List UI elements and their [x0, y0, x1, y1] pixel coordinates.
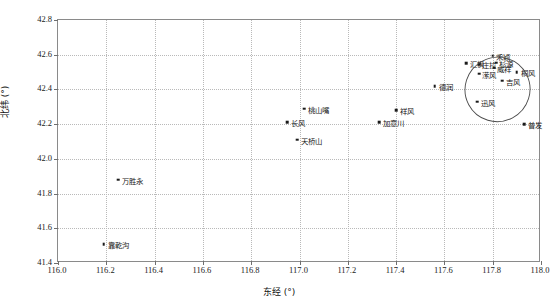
data-point-marker[interactable]: [478, 63, 481, 66]
x-axis-tick-label: 116.6: [192, 265, 211, 275]
scatter-plot-figure: 北纬 (°) 桃山嘴长风天桥山祥风加意川德润万胜永靠乾沟汇枫庄拉禾颖杉源威祥潆风…: [0, 0, 558, 308]
y-axis-tick: [54, 228, 58, 229]
plot-area: 桃山嘴长风天桥山祥风加意川德润万胜永靠乾沟汇枫庄拉禾颖杉源威祥潆风桐风吉风迅风普…: [57, 19, 540, 262]
data-point-marker[interactable]: [478, 73, 481, 76]
data-point-label: 长风: [291, 117, 305, 128]
gridline-vertical: [348, 20, 349, 261]
y-axis-tick: [54, 89, 58, 90]
data-point-marker[interactable]: [465, 62, 468, 65]
y-axis-tick-label: 41.6: [8, 222, 52, 232]
y-axis-tick-label: 42.8: [8, 14, 52, 24]
data-point-label: 靠乾沟: [108, 238, 129, 249]
gridline-horizontal: [58, 228, 539, 229]
data-point-marker[interactable]: [378, 121, 381, 124]
y-axis-tick-label: 42.0: [8, 153, 52, 163]
gridline-vertical: [444, 20, 445, 261]
data-point-label: 威祥: [497, 62, 511, 73]
gridline-vertical: [251, 20, 252, 261]
data-point-marker[interactable]: [491, 54, 494, 57]
data-point-label: 吉风: [506, 75, 520, 86]
y-axis-tick: [54, 159, 58, 160]
y-axis-tick: [54, 124, 58, 125]
x-axis-tick-label: 117.8: [482, 265, 501, 275]
gridline-vertical: [155, 20, 156, 261]
x-axis-tick-label: 118.0: [531, 265, 550, 275]
gridline-vertical: [396, 20, 397, 261]
x-axis-tick-label: 117.2: [337, 265, 356, 275]
y-axis-tick-label: 42.2: [8, 118, 52, 128]
data-point-label: 潆风: [482, 68, 496, 79]
y-axis-tick: [54, 55, 58, 56]
gridline-horizontal: [58, 55, 539, 56]
data-point-marker[interactable]: [296, 138, 299, 141]
data-point-label: 桃山嘴: [308, 103, 329, 114]
gridline-horizontal: [58, 159, 539, 160]
data-point-marker[interactable]: [103, 243, 106, 246]
x-axis-tick-label: 116.4: [144, 265, 163, 275]
y-axis-tick: [54, 194, 58, 195]
gridline-horizontal: [58, 194, 539, 195]
data-point-label: 迅风: [481, 96, 495, 107]
y-axis-tick-label: 41.4: [8, 257, 52, 267]
x-axis-tick-label: 117.0: [289, 265, 308, 275]
x-axis-tick-label: 117.4: [386, 265, 405, 275]
data-point-label: 万胜永: [122, 174, 143, 185]
gridline-vertical: [106, 20, 107, 261]
gridline-horizontal: [58, 89, 539, 90]
x-axis-tick-label: 116.2: [96, 265, 115, 275]
data-point-label: 普发: [528, 119, 542, 130]
data-point-marker[interactable]: [395, 109, 398, 112]
gridline-vertical: [203, 20, 204, 261]
data-point-marker[interactable]: [286, 121, 289, 124]
y-axis-tick-label: 41.8: [8, 188, 52, 198]
y-axis-tick-label: 42.6: [8, 49, 52, 59]
data-point-marker[interactable]: [433, 85, 436, 88]
data-point-marker[interactable]: [476, 100, 479, 103]
data-point-marker[interactable]: [523, 123, 526, 126]
data-point-marker[interactable]: [303, 107, 306, 110]
data-point-marker[interactable]: [516, 71, 519, 74]
data-point-label: 桐风: [521, 67, 535, 78]
x-axis-title: 东经 (°): [0, 285, 558, 298]
data-point-label: 德润: [439, 80, 453, 91]
data-point-label: 加意川: [383, 117, 404, 128]
data-point-label: 天桥山: [301, 134, 322, 145]
data-point-marker[interactable]: [501, 79, 504, 82]
y-axis-tick: [54, 263, 58, 264]
data-point-marker[interactable]: [117, 178, 120, 181]
x-axis-tick-label: 117.6: [434, 265, 453, 275]
y-axis-tick: [54, 20, 58, 21]
x-axis-tick-label: 116.8: [241, 265, 260, 275]
data-point-label: 祥风: [400, 105, 414, 116]
y-axis-tick-label: 42.4: [8, 83, 52, 93]
